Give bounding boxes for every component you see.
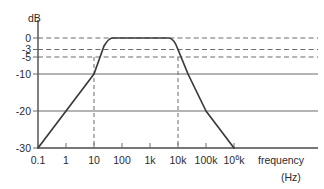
x-tick-label-7-base: 10 (223, 154, 235, 166)
y-tick-label-m30: -30 (16, 142, 31, 154)
x-tick-label-1: 1 (63, 154, 69, 166)
x-tick-label-0: 0.1 (31, 154, 46, 166)
x-tick-label-7: 106k (223, 153, 245, 166)
y-tick-label-m20: -20 (16, 105, 31, 117)
x-tick-label-3: 100 (113, 154, 131, 166)
x-axis-ticks (38, 143, 234, 148)
x-axis-title: frequency (258, 154, 305, 166)
x-tick-label-6: 100k (195, 154, 219, 166)
y-axis-title: dB (28, 12, 41, 24)
x-tick-label-5: 10k (170, 154, 188, 166)
x-tick-label-7-suffix: k (239, 154, 245, 166)
x-tick-label-2: 10 (88, 154, 100, 166)
x-axis-unit: (Hz) (281, 171, 301, 183)
y-tick-label-m5: -5 (22, 51, 31, 63)
chart-svg: dB 0 -3 -5 -10 -20 -30 0.1 1 10 100 1k 1… (0, 0, 324, 189)
vertical-marker-lines (94, 57, 178, 148)
y-tick-label-m10: -10 (16, 68, 31, 80)
frequency-response-chart: dB 0 -3 -5 -10 -20 -30 0.1 1 10 100 1k 1… (0, 0, 324, 189)
y-axis-ticks (33, 38, 38, 148)
response-curve (38, 38, 234, 148)
x-tick-label-4: 1k (144, 154, 156, 166)
